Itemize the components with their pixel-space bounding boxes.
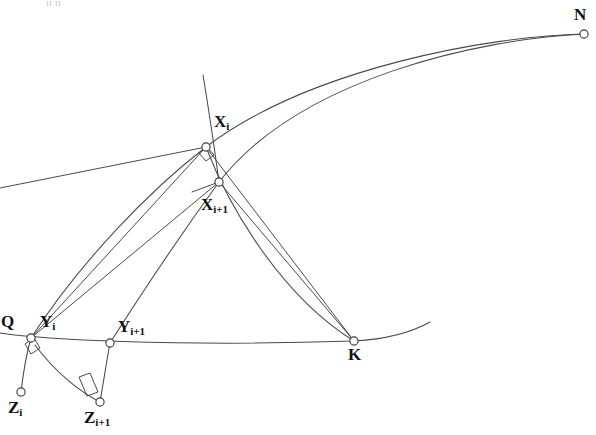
right-angle-markers-layer (25, 147, 214, 396)
label-base: X (201, 195, 213, 214)
arc-Yi1-Xi1-N (110, 34, 584, 343)
label-base: X (214, 112, 226, 131)
vertices-layer (17, 30, 588, 406)
segments-layer (0, 147, 354, 341)
seg-Yi-Xi1 (31, 182, 219, 338)
vertex-zi (17, 388, 25, 396)
label-subscript: i (19, 406, 22, 418)
arc-Q-Yi1-K-E (0, 322, 430, 343)
vertex-yi1 (106, 339, 114, 347)
label-subscript: i+1 (95, 416, 110, 428)
geometry-figure (0, 0, 596, 435)
label-q: Q (1, 313, 14, 330)
label-zi1: Zi+1 (84, 409, 110, 426)
seg-Xi-K (206, 147, 354, 341)
label-subscript: i (226, 120, 229, 132)
arc-Yi1-Zi1 (100, 343, 110, 402)
vertex-k (350, 337, 358, 345)
vertex-q (27, 334, 35, 342)
label-xi: Xi (214, 113, 229, 130)
label-subscript: i+1 (130, 325, 145, 337)
label-xi1: Xi+1 (201, 196, 228, 213)
seg-Xi1-K (219, 182, 354, 341)
label-subscript: i+1 (213, 203, 228, 215)
seg-Yi-Xi (31, 147, 206, 338)
label-base: Z (8, 398, 19, 417)
label-base: Z (84, 408, 95, 427)
label-zi: Zi (8, 399, 22, 416)
label-yi: Yi (40, 313, 55, 330)
vertex-xi (202, 143, 210, 151)
right-angle-Zi1 (79, 373, 98, 396)
arc-Q-Xi-N (31, 34, 584, 338)
label-base: K (348, 345, 361, 364)
label-base: Q (1, 312, 14, 331)
label-yi1: Yi+1 (118, 318, 145, 335)
vertex-xi1 (215, 178, 223, 186)
label-k: K (348, 346, 361, 363)
seg-Xi-left (0, 147, 206, 188)
vertex-n (580, 30, 588, 38)
label-base: N (574, 5, 586, 24)
curves-layer (0, 34, 584, 402)
label-base: Y (40, 312, 52, 331)
vertex-zi1 (96, 398, 104, 406)
label-base: Y (118, 317, 130, 336)
label-n: N (574, 6, 586, 23)
label-subscript: i (52, 320, 55, 332)
